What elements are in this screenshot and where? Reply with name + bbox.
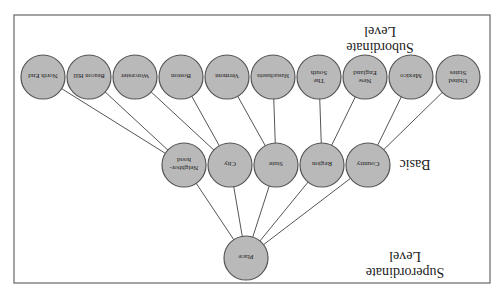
node-beacon-hill: Beacon Hill — [67, 55, 111, 99]
node-worcester: Worcester — [113, 55, 157, 99]
svg-text:States: States — [449, 69, 466, 77]
subordinate-label-line2: Level — [364, 24, 396, 39]
node-north-end: North End — [21, 55, 65, 99]
level-label-basic: Basic — [399, 157, 430, 172]
subordinate-label-line1: Subordinate — [346, 40, 414, 55]
svg-text:New: New — [357, 77, 371, 85]
node-country: Country — [346, 143, 390, 187]
node-state: State — [254, 143, 298, 187]
node-boston: Boston — [159, 55, 203, 99]
svg-text:Vermont: Vermont — [215, 72, 239, 80]
svg-text:State: State — [269, 160, 283, 168]
svg-text:Boston: Boston — [171, 72, 191, 80]
node-place: Place — [224, 236, 268, 280]
svg-text:City: City — [223, 160, 236, 168]
node-neighborhood: Neighbor- hood — [162, 143, 206, 187]
svg-text:United: United — [448, 77, 468, 85]
svg-text:The: The — [314, 77, 325, 85]
svg-text:North End: North End — [28, 72, 58, 80]
node-united-states: United States — [436, 55, 480, 99]
svg-text:Region: Region — [311, 160, 332, 168]
node-vermont: Vermont — [205, 55, 249, 99]
svg-text:Worcester: Worcester — [120, 72, 149, 80]
node-region: Region — [300, 143, 344, 187]
svg-text:South: South — [310, 69, 327, 77]
superordinate-label-line1: Superordinate — [366, 265, 445, 280]
node-mexico: Mexico — [389, 55, 433, 99]
svg-text:Massachusetts: Massachusetts — [257, 73, 289, 79]
svg-text:England: England — [353, 69, 377, 77]
node-city: City — [208, 143, 252, 187]
node-massachusetts: Massachusetts — [251, 55, 295, 99]
hierarchy-diagram: Superordinate Level Basic Subordinate Le… — [0, 0, 500, 298]
node-the-south: The South — [297, 55, 341, 99]
level-label-superordinate: Superordinate Level — [366, 249, 445, 280]
svg-text:Country: Country — [356, 160, 379, 168]
svg-text:Place: Place — [238, 253, 253, 261]
svg-text:Beacon Hill: Beacon Hill — [73, 73, 104, 80]
superordinate-label-line2: Level — [389, 249, 421, 264]
svg-text:Neighbor-: Neighbor- — [169, 164, 198, 172]
level-label-subordinate: Subordinate Level — [346, 24, 414, 55]
node-new-england: New England — [343, 55, 387, 99]
svg-text:hood: hood — [177, 156, 192, 164]
svg-text:Mexico: Mexico — [400, 72, 422, 80]
